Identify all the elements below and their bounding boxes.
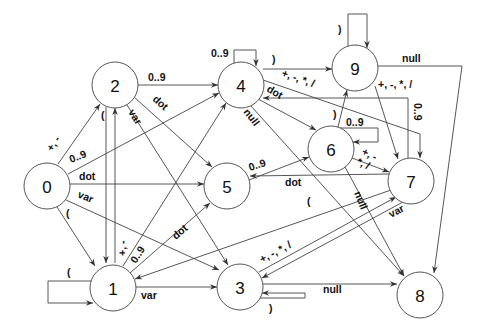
state-label-4: 4	[236, 77, 245, 96]
edge-label-0-4: 0..9	[67, 147, 88, 165]
edge-label-4-8: null	[241, 106, 262, 128]
edge-label-0-3: var	[76, 188, 95, 205]
edge-label-0-1: (	[66, 207, 70, 219]
state-node-6: 6	[308, 126, 354, 172]
edge-label-9-9: )	[338, 23, 342, 35]
edge-label-1-1: (	[67, 266, 71, 278]
state-node-3: 3	[217, 264, 263, 310]
state-transition-diagram: +, - 0..9 dot var ( ( +, - ( 0..9 dot va…	[0, 0, 482, 332]
edge-label-7-1: (	[307, 195, 311, 207]
edge-label-7-5: dot	[285, 176, 302, 188]
edge-label-1-5: dot	[169, 221, 190, 241]
edge-label-2-3: var	[126, 107, 145, 127]
edge-4-6	[258, 99, 316, 130]
state-label-2: 2	[110, 77, 119, 96]
edge-label-6-9: )	[333, 108, 337, 120]
edge-label-2-4: 0..9	[148, 71, 166, 83]
edge-label-4-9: )	[272, 53, 276, 65]
edge-label-0-5: dot	[79, 170, 96, 182]
state-node-9: 9	[332, 45, 378, 91]
edge-9-9-loop	[348, 14, 367, 48]
state-node-5: 5	[204, 163, 250, 209]
edge-label-3-3: )	[269, 302, 273, 314]
edge-label-1-2: +, -	[116, 240, 128, 256]
state-label-5: 5	[222, 178, 231, 197]
edge-label-2-5: dot	[151, 93, 172, 113]
edge-label-1-4: 0..9	[128, 244, 148, 265]
edge-label-4-7: +, -, *, /	[280, 67, 316, 89]
state-label-8: 8	[415, 287, 424, 306]
edge-label-6-6: 0..9	[346, 116, 364, 128]
state-label-7: 7	[406, 173, 415, 192]
edge-3-7	[259, 197, 396, 272]
edge-label-2-1: (	[101, 109, 105, 121]
edge-label-9-7: +, -, *, /	[378, 78, 412, 90]
edge-label-9-8: null	[402, 52, 421, 64]
edge-label-4-4: 0..9	[211, 47, 229, 59]
state-label-3: 3	[235, 279, 244, 298]
state-node-4: 4	[218, 62, 264, 108]
edge-label-5-6: 0..9	[247, 156, 268, 173]
state-label-1: 1	[108, 280, 117, 299]
edge-1-5	[130, 203, 210, 273]
edge-label-1-3: var	[141, 289, 157, 301]
edge-0-1	[57, 207, 95, 266]
state-node-1: 1	[90, 265, 136, 311]
edge-label-7-3: var	[386, 202, 406, 220]
state-node-2: 2	[92, 62, 138, 108]
edge-1-1-loop	[48, 281, 93, 303]
state-node-0: 0	[24, 163, 70, 209]
state-node-7: 7	[388, 158, 434, 204]
edge-label-7-4: 0..9	[412, 103, 424, 121]
state-label-0: 0	[42, 178, 51, 197]
state-label-6: 6	[326, 141, 335, 160]
edge-3-3-loop	[259, 293, 305, 298]
edge-9-7	[375, 86, 398, 159]
state-node-8: 8	[397, 272, 443, 318]
edge-label-3-8: null	[323, 283, 342, 295]
edge-7-5	[250, 174, 389, 176]
edge-label-0-2: +, -	[44, 133, 63, 153]
state-label-9: 9	[350, 60, 359, 79]
edge-label-3-7: +, -, *, /	[257, 238, 293, 265]
